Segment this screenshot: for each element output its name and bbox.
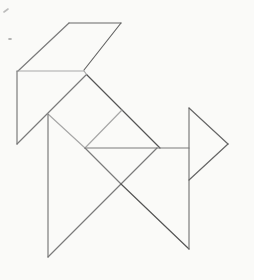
tangram-figure — [0, 0, 254, 280]
head-bottom-edge — [189, 144, 228, 180]
parallelogram-left-edge — [18, 23, 69, 71]
left-hypotenuse-edge — [17, 75, 86, 144]
square-left-inner-edge — [48, 114, 85, 148]
scan-speck-dash — [4, 9, 8, 12]
parallelogram-right-edge — [84, 23, 121, 70]
apex-notch-connector — [84, 71, 87, 75]
back-diagonal-edge — [87, 75, 160, 148]
hind-leg-diagonal-edge — [121, 184, 189, 249]
scanned-paper-background — [0, 0, 254, 280]
head-top-edge — [189, 108, 228, 144]
square-right-inner-edge — [85, 110, 122, 148]
thigh-inner-diagonal — [85, 148, 121, 184]
